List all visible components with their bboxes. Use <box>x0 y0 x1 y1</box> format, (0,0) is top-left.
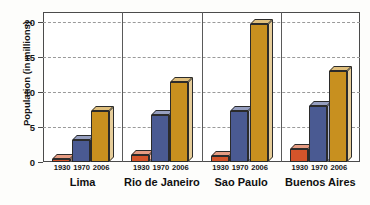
y-tick-label-20: 20 <box>24 17 35 28</box>
bar-buenos-aires-1930 <box>290 149 308 162</box>
group-separator-3 <box>281 12 282 162</box>
chart-root: Population (in millions) 05101520 193019… <box>0 0 370 205</box>
year-label-rio-de-janeiro-2006: 2006 <box>172 163 189 172</box>
bar-front-face <box>72 140 90 162</box>
bar-side-face <box>109 106 114 162</box>
y-tick-label-0: 0 <box>30 157 35 168</box>
bar-rio-de-janeiro-1930 <box>131 155 149 162</box>
bar-front-face <box>131 155 149 162</box>
year-label-buenos-aires-1930: 1930 <box>291 163 308 172</box>
city-label-rio-de-janeiro: Rio de Janeiro <box>124 176 200 188</box>
bar-side-face <box>188 77 193 162</box>
bar-sao-paulo-1970 <box>230 111 248 162</box>
y-tick-5 <box>38 127 43 128</box>
x-axis-year-labels: 1930197020061930197020061930197020061930… <box>43 163 360 175</box>
year-label-lima-2006: 2006 <box>93 163 110 172</box>
year-label-lima-1970: 1970 <box>73 163 90 172</box>
bar-front-face <box>230 111 248 162</box>
year-label-sao-paulo-1930: 1930 <box>212 163 229 172</box>
bar-side-face <box>268 19 273 162</box>
x-axis-city-labels: LimaRio de JaneiroSao PauloBuenos Aires <box>43 176 360 192</box>
year-label-sao-paulo-2006: 2006 <box>251 163 268 172</box>
bar-front-face <box>52 159 70 162</box>
year-label-lima-1930: 1930 <box>54 163 71 172</box>
plot-area: 05101520 <box>43 12 360 162</box>
bar-front-face <box>151 115 169 162</box>
city-label-lima: Lima <box>70 176 96 188</box>
bar-sao-paulo-2006 <box>250 24 268 162</box>
city-label-sao-paulo: Sao Paulo <box>215 176 268 188</box>
bar-lima-1970 <box>72 140 90 162</box>
bar-front-face <box>250 24 268 162</box>
bar-front-face <box>329 71 347 162</box>
y-tick-10 <box>38 92 43 93</box>
y-tick-label-15: 15 <box>24 52 35 63</box>
bar-front-face <box>309 106 327 162</box>
year-label-sao-paulo-1970: 1970 <box>232 163 249 172</box>
bar-front-face <box>170 82 188 162</box>
bar-rio-de-janeiro-2006 <box>170 82 188 162</box>
bar-lima-1930 <box>52 159 70 162</box>
bar-front-face <box>290 149 308 162</box>
group-separator-1 <box>122 12 123 162</box>
year-label-buenos-aires-2006: 2006 <box>330 163 347 172</box>
bar-buenos-aires-1970 <box>309 106 327 162</box>
city-label-buenos-aires: Buenos Aires <box>285 176 356 188</box>
y-tick-label-10: 10 <box>24 87 35 98</box>
bar-lima-2006 <box>91 111 109 162</box>
bar-sao-paulo-1930 <box>211 156 229 162</box>
year-label-rio-de-janeiro-1970: 1970 <box>152 163 169 172</box>
y-tick-label-5: 5 <box>30 122 35 133</box>
y-tick-15 <box>38 57 43 58</box>
y-tick-20 <box>38 22 43 23</box>
bar-front-face <box>211 156 229 162</box>
group-separator-2 <box>202 12 203 162</box>
year-label-buenos-aires-1970: 1970 <box>311 163 328 172</box>
year-label-rio-de-janeiro-1930: 1930 <box>133 163 150 172</box>
bar-buenos-aires-2006 <box>329 71 347 162</box>
bar-side-face <box>347 66 352 162</box>
bar-front-face <box>91 111 109 162</box>
bar-rio-de-janeiro-1970 <box>151 115 169 162</box>
